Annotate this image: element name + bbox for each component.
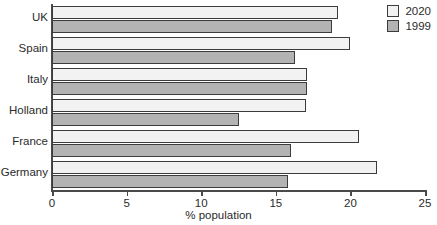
legend: 2020 1999 xyxy=(387,5,431,32)
legend-item-1999[interactable]: 1999 xyxy=(387,20,431,32)
bar-chart: UKSpainItalyHollandFranceGermany 0510152… xyxy=(0,0,437,225)
value-axis-line xyxy=(51,190,426,192)
category-label-france: France xyxy=(0,135,48,147)
bar-spain-1999[interactable] xyxy=(52,51,295,64)
legend-swatch-2020 xyxy=(387,5,399,17)
legend-item-2020[interactable]: 2020 xyxy=(387,5,431,17)
category-label-uk: UK xyxy=(0,11,48,23)
tick-5 xyxy=(127,190,129,196)
bar-group xyxy=(52,128,425,159)
bar-france-1999[interactable] xyxy=(52,144,291,157)
category-label-italy: Italy xyxy=(0,73,48,85)
legend-label-2020: 2020 xyxy=(405,5,431,17)
bar-holland-2020[interactable] xyxy=(52,99,306,112)
bar-group xyxy=(52,4,425,35)
bar-uk-1999[interactable] xyxy=(52,20,332,33)
tick-label-5: 5 xyxy=(123,197,129,209)
tick-label-15: 15 xyxy=(269,197,282,209)
plot-area xyxy=(52,4,425,190)
legend-label-1999: 1999 xyxy=(405,20,431,32)
bar-france-2020[interactable] xyxy=(52,130,359,143)
bar-group xyxy=(52,35,425,66)
bar-germany-1999[interactable] xyxy=(52,175,288,188)
category-label-holland: Holland xyxy=(0,104,48,116)
tick-label-25: 25 xyxy=(419,197,432,209)
bar-holland-1999[interactable] xyxy=(52,113,239,126)
tick-15 xyxy=(276,190,278,196)
tick-0 xyxy=(52,190,54,196)
bar-group xyxy=(52,159,425,190)
tick-label-20: 20 xyxy=(344,197,357,209)
bar-germany-2020[interactable] xyxy=(52,161,377,174)
legend-swatch-1999 xyxy=(387,20,399,32)
category-label-germany: Germany xyxy=(0,166,48,178)
bar-uk-2020[interactable] xyxy=(52,6,338,19)
tick-label-10: 10 xyxy=(195,197,208,209)
bar-group xyxy=(52,66,425,97)
tick-label-0: 0 xyxy=(49,197,55,209)
category-label-spain: Spain xyxy=(0,42,48,54)
bar-spain-2020[interactable] xyxy=(52,37,350,50)
x-axis-title: % population xyxy=(0,209,437,221)
tick-10 xyxy=(201,190,203,196)
tick-25 xyxy=(425,190,427,196)
tick-20 xyxy=(350,190,352,196)
bar-group xyxy=(52,97,425,128)
bar-italy-2020[interactable] xyxy=(52,68,307,81)
bar-italy-1999[interactable] xyxy=(52,82,307,95)
